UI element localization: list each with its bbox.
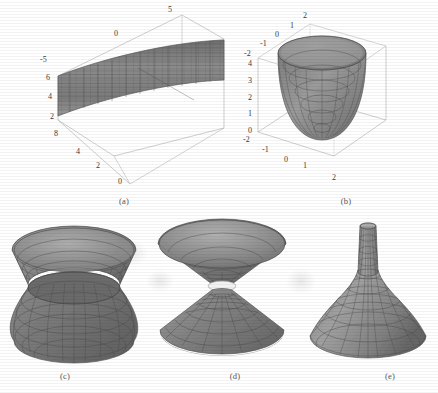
panel-b-surface <box>278 36 366 140</box>
panel-b-tick-bottom--1: -1 <box>262 146 269 154</box>
panel-b-plot <box>246 10 432 188</box>
panel-d-lower-cone <box>160 287 284 356</box>
panel-d <box>152 216 292 368</box>
panel-b-tick-bottom-2: 2 <box>332 174 336 182</box>
panel-e <box>300 218 436 370</box>
panel-b-tick-top--1: -1 <box>260 40 267 48</box>
panel-a-tick-y-4: 4 <box>76 148 80 156</box>
panel-a-tick-z-6: 6 <box>46 74 50 82</box>
panel-a-caption: (a) <box>104 196 144 206</box>
panel-a-tick-x--5: -5 <box>40 56 47 64</box>
panel-b-tick-z-0: 0 <box>248 127 252 135</box>
panel-b: -2 -1 0 1 2 4 3 2 1 0 -2 -1 0 1 2 <box>246 10 432 188</box>
panel-b-tick-top-1: 1 <box>290 22 294 30</box>
panel-a-tick-z-2: 2 <box>50 113 54 121</box>
panel-d-caption: (d) <box>215 371 255 381</box>
panel-d-upper-cone <box>158 219 286 291</box>
panel-a-tick-y-0: 0 <box>118 178 122 186</box>
panel-a-tick-x-5: 5 <box>168 6 172 14</box>
panel-b-tick-z-4: 4 <box>248 60 252 68</box>
panel-a-tick-z-4: 4 <box>48 93 52 101</box>
panel-b-tick-bottom-1: 1 <box>303 162 307 170</box>
panel-a-tick-y-2: 2 <box>96 162 100 170</box>
panel-b-tick-top--2: -2 <box>244 50 251 58</box>
panel-a-surface <box>48 33 238 128</box>
panel-a: -5 0 5 6 4 2 8 4 2 0 <box>18 8 228 188</box>
panel-a-tick-x-0: 0 <box>114 30 118 38</box>
panel-b-tick-z-3: 3 <box>248 77 252 85</box>
panel-b-tick-z-2: 2 <box>248 94 252 102</box>
panel-b-tick-top-2: 2 <box>303 12 307 20</box>
panel-b-caption: (b) <box>326 196 366 206</box>
panel-c-scan-smudge <box>114 240 148 266</box>
panel-e-scan-smudge <box>286 268 316 294</box>
figure-plate: -5 0 5 6 4 2 8 4 2 0 (a) <box>0 0 438 393</box>
panel-e-surface <box>310 223 426 364</box>
panel-e-plot <box>300 218 436 370</box>
panel-c-caption: (c) <box>45 371 85 381</box>
panel-b-tick-top-0: 0 <box>275 31 279 39</box>
panel-c <box>2 218 146 370</box>
panel-b-tick-bottom-0: 0 <box>284 156 288 164</box>
panel-b-tick-left-corner: -2 <box>243 136 250 144</box>
panel-b-tick-z-1: 1 <box>248 110 252 118</box>
panel-e-caption: (e) <box>370 371 410 381</box>
panel-a-tick-y-8: 8 <box>54 130 58 138</box>
panel-d-scan-smudge <box>146 270 174 292</box>
panel-c-lower-sheet <box>10 272 138 369</box>
panel-d-plot <box>152 216 292 368</box>
